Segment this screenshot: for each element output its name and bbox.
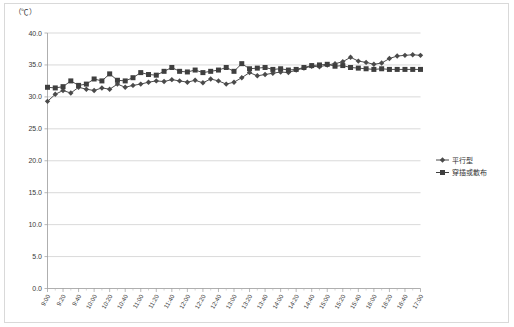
x-tick-label: 12:00 xyxy=(177,293,191,310)
x-tick-label: 16:00 xyxy=(364,293,378,310)
data-point-marker xyxy=(231,79,236,84)
y-tick-label: 20.0 xyxy=(28,157,42,164)
data-point-marker xyxy=(200,70,205,75)
data-point-marker xyxy=(192,78,197,83)
data-point-marker xyxy=(76,83,81,88)
data-point-marker xyxy=(193,68,198,73)
data-point-marker xyxy=(107,87,112,92)
data-point-marker xyxy=(371,62,376,67)
data-point-marker xyxy=(84,82,89,87)
data-point-marker xyxy=(162,69,167,74)
data-point-marker xyxy=(224,65,229,70)
data-point-marker xyxy=(200,80,205,85)
x-tick-label: 15:20 xyxy=(333,293,347,310)
data-point-marker xyxy=(294,67,299,72)
data-point-marker xyxy=(379,66,384,71)
data-point-marker xyxy=(387,56,392,61)
data-point-marker xyxy=(395,67,400,72)
data-point-marker xyxy=(154,78,159,83)
y-tick-label: 30.0 xyxy=(28,93,42,100)
data-point-marker xyxy=(185,79,190,84)
x-tick-label: 16:20 xyxy=(379,293,393,310)
x-tick-label: 14:20 xyxy=(286,293,300,310)
x-tick-label: 16:40 xyxy=(395,293,409,310)
y-tick-label: 0.0 xyxy=(32,285,42,292)
data-point-marker xyxy=(340,63,345,68)
data-point-marker xyxy=(130,83,135,88)
data-point-marker xyxy=(418,53,423,58)
data-point-marker xyxy=(68,78,73,83)
x-tick-label: 14:00 xyxy=(271,293,285,310)
x-tick-label: 10:20 xyxy=(100,293,114,310)
x-tick-label: 11:40 xyxy=(162,293,176,310)
series-group xyxy=(45,52,423,104)
y-tick-label: 5.0 xyxy=(32,253,42,260)
data-point-marker xyxy=(348,65,353,70)
data-point-marker xyxy=(99,78,104,83)
data-point-marker xyxy=(61,84,66,89)
data-point-marker xyxy=(263,65,268,70)
data-point-marker xyxy=(262,72,267,77)
data-point-marker xyxy=(169,77,174,82)
data-point-marker xyxy=(239,61,244,66)
data-point-marker xyxy=(146,79,151,84)
data-point-marker xyxy=(84,87,89,92)
data-point-marker xyxy=(348,55,353,60)
data-point-marker xyxy=(115,78,120,83)
data-point-marker xyxy=(92,76,97,81)
data-point-marker xyxy=(91,88,96,93)
data-point-marker xyxy=(255,73,260,78)
x-tick-label: 17:00 xyxy=(411,293,425,310)
data-point-marker xyxy=(177,78,182,83)
data-point-marker xyxy=(232,69,237,74)
legend-label: 穿插或散布 xyxy=(452,168,487,177)
data-point-marker xyxy=(356,58,361,63)
data-point-marker xyxy=(301,65,306,70)
data-point-marker xyxy=(123,78,128,83)
data-point-marker xyxy=(418,67,423,72)
data-point-marker xyxy=(387,67,392,72)
data-point-marker xyxy=(177,69,182,74)
data-point-marker xyxy=(154,73,159,78)
data-point-marker xyxy=(130,75,135,80)
x-tick-label: 12:40 xyxy=(209,293,223,310)
data-point-marker xyxy=(146,72,151,77)
data-point-marker xyxy=(216,78,221,83)
data-point-marker xyxy=(224,81,229,86)
y-tick-label: 10.0 xyxy=(28,221,42,228)
data-point-marker xyxy=(394,53,399,58)
data-point-marker xyxy=(270,67,275,72)
legend-marker-1 xyxy=(440,157,445,162)
x-tick-label: 9:20 xyxy=(55,293,67,307)
y-tick-label: 35.0 xyxy=(28,61,42,68)
x-tick-label: 14:40 xyxy=(302,293,316,310)
legend-marker-2 xyxy=(440,170,445,175)
x-tick-label: 9:40 xyxy=(70,293,82,307)
y-tick-label: 40.0 xyxy=(28,30,42,37)
data-point-marker xyxy=(185,69,190,74)
data-point-marker xyxy=(123,85,128,90)
x-tick-label: 9:00 xyxy=(39,293,51,307)
x-axis-ticks: 9:009:209:4010:0010:2010:4011:0011:2011:… xyxy=(39,289,424,310)
data-point-marker xyxy=(363,60,368,65)
data-point-marker xyxy=(208,69,213,74)
data-point-marker xyxy=(410,67,415,72)
x-tick-label: 11:20 xyxy=(147,293,161,310)
data-point-marker xyxy=(309,63,314,68)
data-point-marker xyxy=(45,85,50,90)
data-point-marker xyxy=(364,66,369,71)
x-tick-label: 13:40 xyxy=(255,293,269,310)
chart-legend: 平行型穿插或散布 xyxy=(436,156,487,178)
y-tick-label: 15.0 xyxy=(28,189,42,196)
data-point-marker xyxy=(107,71,112,76)
data-point-marker xyxy=(138,81,143,86)
data-point-marker xyxy=(255,66,260,71)
data-point-marker xyxy=(161,79,166,84)
data-point-marker xyxy=(208,76,213,81)
data-point-marker xyxy=(325,62,330,67)
x-tick-label: 10:40 xyxy=(115,293,129,310)
x-tick-label: 15:40 xyxy=(348,293,362,310)
y-tick-label: 25.0 xyxy=(28,125,42,132)
data-point-marker xyxy=(356,66,361,71)
data-point-marker xyxy=(278,66,283,71)
